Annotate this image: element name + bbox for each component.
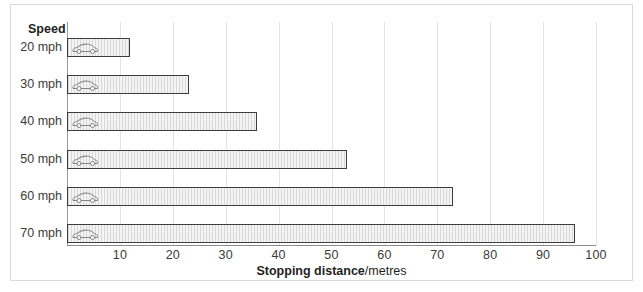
x-tick-label-20: 20: [153, 248, 193, 262]
car-icon: [71, 115, 99, 129]
speed-label-60-mph: 60 mph: [0, 187, 62, 206]
x-tick-label-30: 30: [206, 248, 246, 262]
bar-30-mph: [67, 75, 189, 94]
gridline-80: [490, 22, 491, 245]
x-axis-title-regular: /metres: [365, 264, 407, 278]
x-tick-label-100: 100: [576, 248, 616, 262]
x-tick-label-80: 80: [470, 248, 510, 262]
bar-60-mph: [67, 187, 453, 206]
gridline-50: [332, 22, 333, 245]
speed-label-50-mph: 50 mph: [0, 150, 62, 169]
car-icon: [71, 227, 99, 241]
car-icon: [71, 153, 99, 167]
x-axis-title-bold: Stopping distance: [256, 264, 364, 278]
gridline-40: [279, 22, 280, 245]
gridline-100: [596, 22, 597, 245]
x-tick-label-50: 50: [312, 248, 352, 262]
gridline-20: [173, 22, 174, 245]
gridline-70: [437, 22, 438, 245]
x-axis-line: [67, 245, 596, 246]
x-tick-label-60: 60: [364, 248, 404, 262]
car-icon: [71, 190, 99, 204]
x-tick-label-10: 10: [100, 248, 140, 262]
x-tick-label-70: 70: [417, 248, 457, 262]
gridline-90: [543, 22, 544, 245]
bar-20-mph: [67, 38, 130, 57]
speed-label-70-mph: 70 mph: [0, 224, 62, 243]
bar-40-mph: [67, 112, 257, 131]
speed-header: Speed: [28, 22, 66, 36]
gridline-30: [226, 22, 227, 245]
speed-label-20-mph: 20 mph: [0, 38, 62, 57]
x-tick-label-90: 90: [523, 248, 563, 262]
plot-area: Speed 20 mph30 mph40 mph50 mph60 mph70 m…: [0, 0, 643, 292]
car-icon: [71, 41, 99, 55]
car-icon: [71, 78, 99, 92]
x-tick-label-40: 40: [259, 248, 299, 262]
gridline-60: [384, 22, 385, 245]
speed-label-30-mph: 30 mph: [0, 75, 62, 94]
speed-label-40-mph: 40 mph: [0, 112, 62, 131]
bar-50-mph: [67, 150, 347, 169]
stopping-distance-chart: Speed 20 mph30 mph40 mph50 mph60 mph70 m…: [0, 0, 643, 292]
bar-70-mph: [67, 224, 575, 243]
x-axis-title: Stopping distance/metres: [67, 264, 596, 278]
